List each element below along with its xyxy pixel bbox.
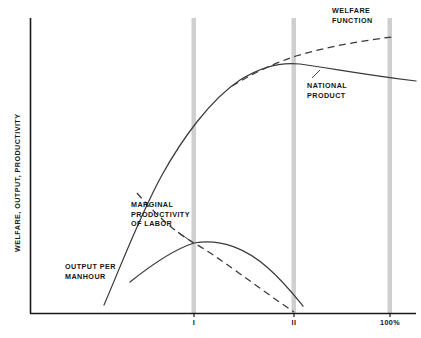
chart-plot-area xyxy=(0,0,421,338)
series-national-product xyxy=(104,64,416,305)
chart-figure: WELFARE, OUTPUT, PRODUCTIVITY WELFARE FU… xyxy=(0,0,421,338)
national-product-label: NATIONAL PRODUCT xyxy=(307,81,347,100)
leader-line-national xyxy=(312,70,320,78)
series-output-per-manhour xyxy=(130,242,303,306)
reference-band-100pct xyxy=(388,18,393,313)
x-axis-tick-label-I: I xyxy=(193,318,195,327)
reference-band-I xyxy=(192,18,197,313)
output-per-manhour-label: OUTPUT PER MANHOUR xyxy=(65,262,116,281)
reference-band-II xyxy=(292,18,297,313)
y-axis-title: WELFARE, OUTPUT, PRODUCTIVITY xyxy=(13,114,22,252)
series-welfare-function xyxy=(232,37,392,86)
x-axis-tick-label-II: II xyxy=(292,318,297,327)
leader-line-marginal xyxy=(178,232,192,242)
welfare-function-label: WELFARE FUNCTION xyxy=(332,6,373,25)
x-axis-tick-label-100pct: 100% xyxy=(380,318,400,327)
marginal-productivity-label: MARGINAL PRODUCTIVITY OF LABOR xyxy=(131,200,190,229)
